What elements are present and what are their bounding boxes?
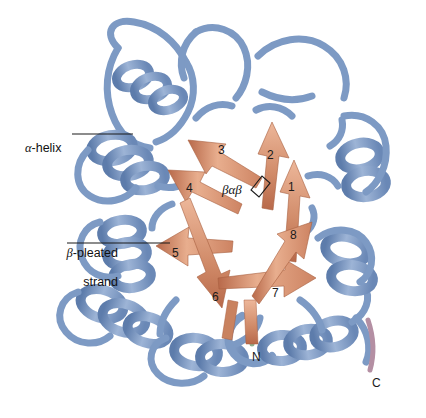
bab-motif-label: βαβ xyxy=(222,182,242,198)
protein-fold-figure xyxy=(0,0,426,418)
beta-strand-label-line2: strand xyxy=(83,275,118,289)
beta-strand-number-6: 6 xyxy=(212,290,219,304)
beta-strand-number-1: 1 xyxy=(288,180,295,194)
beta-strand-number-8: 8 xyxy=(290,228,297,242)
beta-strand-number-2: 2 xyxy=(267,148,274,162)
terminus-label-c: C xyxy=(372,376,381,390)
alpha-helix-label-text: -helix xyxy=(32,141,62,155)
beta-strand-number-7: 7 xyxy=(272,286,279,300)
terminus-label-n: N xyxy=(252,350,261,364)
beta-strand-number-4: 4 xyxy=(186,181,193,195)
beta-strand-callout-label: β-pleated strand xyxy=(12,232,118,290)
beta-strand-number-5: 5 xyxy=(172,246,179,260)
beta-strand-label-text: -pleated xyxy=(73,246,118,260)
beta-strand-n-connector xyxy=(244,300,258,344)
alpha-helix-callout-label: α-helix xyxy=(18,127,61,156)
beta-strand-number-3: 3 xyxy=(218,143,225,157)
